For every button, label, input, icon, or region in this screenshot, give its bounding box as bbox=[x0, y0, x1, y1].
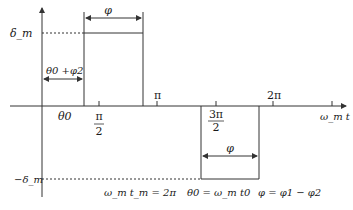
phi-bottom-label: φ bbox=[226, 142, 234, 155]
pi-label: π bbox=[154, 89, 161, 102]
three-pi-half-den: 2 bbox=[213, 121, 220, 134]
phi-top-label: φ bbox=[104, 4, 112, 17]
theta0-label: θ0 bbox=[58, 110, 72, 123]
delta-m-label: δ_m bbox=[10, 27, 33, 40]
x-axis-label: ω_m t bbox=[320, 111, 351, 123]
two-pi-label: 2π bbox=[267, 89, 281, 102]
neg-delta-m-label: −δ_m bbox=[14, 174, 43, 186]
three-pi-half-num: 3π bbox=[209, 108, 223, 121]
phi-def-label: φ = φ1 − φ2 bbox=[258, 187, 321, 198]
theta0-def-label: θ0 = ω_m t0 bbox=[187, 187, 251, 199]
period-label: ω_m t_m = 2π bbox=[104, 187, 176, 199]
positive-pulse bbox=[84, 33, 143, 106]
pi-half-den: 2 bbox=[96, 125, 103, 138]
waveform-diagram: φ δ_m θ0 +φ2 π 2π ω_m t θ0 π 2 3π 2 φ −δ… bbox=[0, 0, 353, 210]
pi-half-num: π bbox=[95, 110, 102, 123]
theta-phi2-label: θ0 +φ2 bbox=[46, 65, 83, 76]
